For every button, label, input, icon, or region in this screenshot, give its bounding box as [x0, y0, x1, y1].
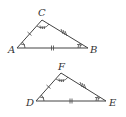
vertex-label-b: B: [89, 44, 97, 55]
vertex-label-f: F: [57, 61, 66, 72]
triangle-def: F D E: [25, 61, 117, 108]
triangle-abc-outline: [17, 20, 88, 48]
vertex-label-d: D: [25, 97, 34, 108]
congruent-triangles-diagram: C A B F D E: [0, 0, 126, 117]
angle-b-tick: [77, 45, 82, 46]
triangle-def-outline: [36, 73, 106, 101]
angle-c-arc: [37, 24, 49, 28]
vertex-label-c: C: [38, 7, 46, 18]
angle-f-arc: [56, 77, 68, 81]
angle-f-ticks: [59, 79, 64, 83]
vertex-label-a: A: [7, 44, 15, 55]
triangle-abc: C A B: [7, 7, 97, 55]
angle-e-tick: [95, 98, 100, 99]
angle-c-ticks: [40, 26, 45, 30]
vertex-label-e: E: [108, 97, 117, 108]
